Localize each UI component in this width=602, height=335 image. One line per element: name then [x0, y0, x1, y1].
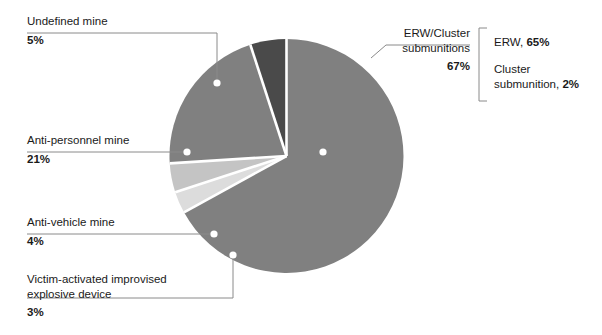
label-anti-personnel-mine-pct: 21%: [27, 152, 129, 167]
marker-victim-activated-ied: [229, 251, 236, 258]
breakdown-item-cluster-pct: 2%: [562, 78, 579, 90]
marker-anti-vehicle-mine: [210, 230, 217, 237]
label-anti-vehicle-mine-text: Anti-vehicle mine: [27, 216, 115, 228]
label-anti-vehicle-mine-pct: 4%: [27, 234, 115, 249]
label-erw-cluster-pct: 67%: [333, 59, 470, 74]
label-anti-personnel-mine: Anti-personnel mine 21%: [27, 133, 129, 166]
breakdown-item-erw-text: ERW,: [494, 36, 526, 48]
breakdown-item-erw: ERW, 65%: [494, 35, 549, 50]
marker-undefined-mine: [213, 79, 220, 86]
breakdown-item-cluster-line1: Cluster: [494, 63, 530, 75]
label-victim-activated-ied-text-line2: explosive device: [27, 288, 111, 300]
marker-erw-cluster: [319, 148, 326, 155]
label-anti-personnel-mine-text: Anti-personnel mine: [27, 134, 129, 146]
label-victim-activated-ied: Victim-activated improvised explosive de…: [27, 272, 167, 320]
label-erw-cluster-text-line2: submunitions: [402, 42, 470, 54]
label-erw-cluster-text-line1: ERW/Cluster: [404, 27, 470, 39]
breakdown-item-cluster-submunition: Cluster submunition, 2%: [494, 62, 579, 91]
breakdown-item-erw-pct: 65%: [526, 36, 549, 48]
breakdown-bracket: [479, 28, 487, 101]
label-victim-activated-ied-pct: 3%: [27, 305, 167, 320]
label-undefined-mine: Undefined mine 5%: [27, 14, 108, 47]
label-undefined-mine-pct: 5%: [27, 33, 108, 48]
label-victim-activated-ied-text-line1: Victim-activated improvised: [27, 273, 167, 285]
label-undefined-mine-text: Undefined mine: [27, 15, 108, 27]
marker-anti-personnel-mine: [183, 148, 190, 155]
chart-canvas: Undefined mine 5% Anti-personnel mine 21…: [0, 0, 602, 335]
label-erw-cluster-submunitions: ERW/Cluster submunitions 67%: [333, 26, 470, 74]
breakdown-item-cluster-text: submunition,: [494, 78, 562, 90]
label-anti-vehicle-mine: Anti-vehicle mine 4%: [27, 215, 115, 248]
